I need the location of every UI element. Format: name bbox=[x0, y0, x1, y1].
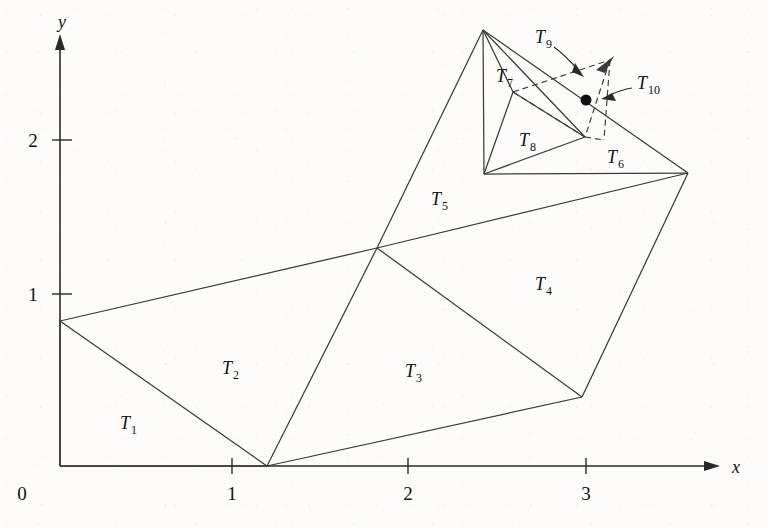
edge-E-F bbox=[582, 173, 688, 397]
x-tick-label-0: 0 bbox=[17, 483, 27, 504]
edge-D-G bbox=[377, 30, 483, 248]
triangle-label-t9: T9 bbox=[535, 27, 552, 51]
edge-B-D bbox=[60, 248, 377, 321]
triangle-label-t7: T7 bbox=[496, 66, 513, 90]
triangle-label-t1: T1 bbox=[120, 413, 137, 437]
t7-subscript: 7 bbox=[507, 76, 513, 90]
y-axis-arrow-icon bbox=[55, 34, 65, 50]
x-axis-label: x bbox=[731, 457, 740, 477]
triangle-label-t10: T10 bbox=[637, 73, 660, 97]
x-tick-label-2: 2 bbox=[403, 483, 413, 504]
mesh-dashed-edges bbox=[513, 56, 614, 140]
edge-I-H bbox=[484, 92, 513, 174]
dashed-apex-arrow-icon bbox=[596, 56, 614, 73]
edge-C-D bbox=[267, 248, 377, 466]
t9-subscript: 9 bbox=[546, 37, 552, 51]
x-axis-arrow-icon bbox=[704, 461, 720, 471]
edge-C-E bbox=[267, 397, 582, 466]
leader-arrow-t10-icon bbox=[601, 93, 616, 101]
triangle-labels: T1 T2 T3 T4 T5 T6 T7 T8 bbox=[120, 27, 660, 437]
t2-subscript: 2 bbox=[233, 368, 239, 382]
y-ticks-group bbox=[52, 140, 72, 294]
triangle-label-t4: T4 bbox=[535, 274, 552, 298]
mesh-canvas: 1 2 0 1 2 3 y x bbox=[0, 0, 768, 529]
y-tick-label-1: 1 bbox=[28, 284, 38, 305]
y-tick-label-2: 2 bbox=[28, 130, 38, 151]
triangle-label-t8: T8 bbox=[519, 130, 536, 154]
t4-subscript: 4 bbox=[546, 284, 552, 298]
t1-subscript: 1 bbox=[131, 423, 137, 437]
triangle-label-t6: T6 bbox=[607, 147, 624, 171]
edge-D-F bbox=[377, 173, 688, 248]
t3-subscript: 3 bbox=[416, 371, 422, 385]
t5-subscript: 5 bbox=[442, 199, 448, 213]
y-axis-label: y bbox=[56, 12, 66, 32]
marked-node-dot bbox=[581, 95, 592, 106]
x-tick-label-1: 1 bbox=[227, 483, 237, 504]
t8-subscript: 8 bbox=[530, 140, 536, 154]
axes-group bbox=[55, 34, 720, 471]
triangle-label-t5: T5 bbox=[431, 189, 448, 213]
triangle-label-t2: T2 bbox=[222, 358, 239, 382]
t6-subscript: 6 bbox=[618, 157, 624, 171]
edge-B-C bbox=[60, 321, 267, 466]
x-tick-label-3: 3 bbox=[581, 483, 591, 504]
edge-H-F bbox=[484, 173, 688, 174]
t10-subscript: 10 bbox=[648, 83, 660, 97]
edge-G-H bbox=[483, 30, 484, 174]
triangulation-figure: 1 2 0 1 2 3 y x bbox=[0, 0, 768, 529]
annotation-leaders bbox=[554, 47, 632, 101]
triangle-label-t3: T3 bbox=[405, 361, 422, 385]
mesh-solid-edges bbox=[60, 30, 688, 466]
edge-dashed-J-L bbox=[585, 137, 604, 140]
